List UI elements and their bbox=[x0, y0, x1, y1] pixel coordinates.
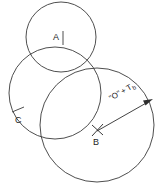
point-cross-b-stroke-2 bbox=[92, 124, 103, 136]
point-label-a: A bbox=[53, 32, 59, 42]
tick-mark-c bbox=[12, 107, 24, 112]
radius-arrow-head-icon bbox=[143, 99, 153, 106]
radius-arrow-line bbox=[97, 102, 148, 131]
point-label-c: C bbox=[15, 115, 22, 125]
circle-a bbox=[26, 2, 96, 72]
diagram-canvas: A C B "O"+Tb bbox=[0, 0, 165, 195]
radius-label-group: "O"+Tb bbox=[108, 80, 138, 103]
circle-b bbox=[40, 68, 154, 182]
radius-label-text: "O"+Tb bbox=[108, 80, 138, 103]
geometric-construction-diagram: A C B "O"+Tb bbox=[0, 0, 165, 195]
point-label-b: B bbox=[93, 137, 99, 147]
